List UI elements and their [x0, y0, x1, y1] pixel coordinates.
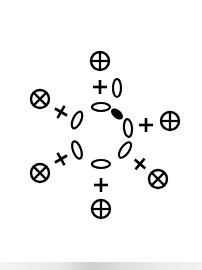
lobe-bottom	[92, 160, 110, 168]
ring-lobes	[70, 103, 134, 168]
plus-icon-right	[139, 118, 153, 132]
plus-icon-top	[93, 80, 107, 94]
lobe-top	[92, 103, 110, 111]
lobe-left	[70, 110, 85, 130]
circled-plus-icon-upper-left	[27, 86, 52, 111]
plus-signs	[51, 80, 153, 192]
plus-icon-lower-right	[130, 154, 150, 174]
plus-icon-upper-left	[51, 102, 70, 121]
lobe-top-right	[110, 108, 123, 120]
circled-plus-charges	[27, 52, 179, 218]
plus-icon-bottom	[94, 178, 108, 192]
circled-plus-icon-lower-right	[145, 166, 170, 191]
lobe-bottom-left	[70, 140, 84, 160]
zero-lobe-icon	[113, 79, 121, 97]
circled-plus-icon-top	[91, 52, 109, 70]
plus-icon-lower-left	[51, 149, 70, 168]
circled-plus-icon-lower-left	[27, 160, 52, 185]
top-zero-lobe	[113, 79, 121, 97]
circled-plus-icon-right	[161, 112, 179, 130]
circled-plus-icon-bottom	[92, 200, 110, 218]
orbital-ring-diagram	[0, 0, 202, 270]
lobe-bottom-right	[117, 140, 134, 159]
bottom-edge-strip	[0, 262, 202, 270]
lobe-right	[123, 119, 133, 138]
